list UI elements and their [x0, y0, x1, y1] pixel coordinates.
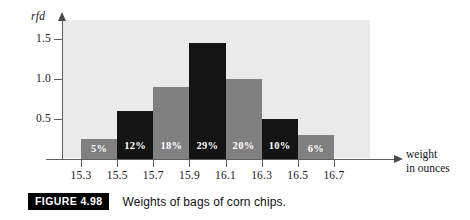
bar-series: 5%12%18%29%20%10%6%: [63, 20, 370, 159]
bar: 20%: [226, 79, 262, 159]
x-axis-tick-label: 15.5: [97, 169, 137, 181]
figure-number-badge: FIGURE 4.98: [28, 193, 109, 210]
y-axis-arrowhead: [58, 12, 66, 21]
x-axis-tick: [153, 159, 154, 167]
x-axis-tick: [298, 159, 299, 167]
bar: 29%: [189, 43, 225, 159]
bar-value-label: 29%: [189, 140, 225, 151]
x-axis-title-line1: weight: [406, 147, 450, 161]
x-axis-tick-label: 16.3: [242, 169, 282, 181]
bar-value-label: 20%: [226, 140, 262, 151]
y-axis-tick-label: 1.0: [11, 72, 51, 84]
y-axis-tick-label: 0.5: [11, 112, 51, 124]
bar-value-label: 12%: [117, 140, 153, 151]
x-axis-tick-label: 15.3: [61, 169, 101, 181]
figure-caption: FIGURE 4.98 Weights of bags of corn chip…: [28, 193, 286, 210]
bar: 12%: [117, 111, 153, 159]
x-axis-tick: [81, 159, 82, 167]
x-axis-tick-label: 16.1: [206, 169, 246, 181]
x-axis-tick-label: 16.7: [314, 169, 354, 181]
x-axis-tick: [117, 159, 118, 167]
y-axis-tick: [54, 79, 63, 80]
bar-value-label: 18%: [153, 140, 189, 151]
bar: 5%: [81, 139, 117, 159]
x-axis-tick: [226, 159, 227, 167]
y-axis-tick-label: 1.5: [11, 32, 51, 44]
y-axis-tick: [54, 39, 63, 40]
x-axis-tick: [262, 159, 263, 167]
x-axis-tick: [189, 159, 190, 167]
figure-container: 5%12%18%29%20%10%6% 0.51.01.5 15.315.515…: [0, 0, 470, 220]
bar: 18%: [153, 87, 189, 159]
y-axis-title: rfd: [31, 10, 45, 22]
x-axis-arrowhead: [394, 155, 403, 163]
y-axis-line: [62, 20, 63, 160]
x-axis-tick-label: 15.7: [133, 169, 173, 181]
x-axis-tick-label: 16.5: [278, 169, 318, 181]
figure-caption-text: Weights of bags of corn chips.: [122, 195, 286, 209]
bar-value-label: 5%: [81, 143, 117, 154]
y-axis-tick: [54, 119, 63, 120]
x-axis-tick: [334, 159, 335, 167]
x-axis-line: [46, 159, 395, 160]
bar: 10%: [262, 119, 298, 159]
x-axis-tick-label: 15.9: [169, 169, 209, 181]
x-axis-title: weight in ounces: [406, 147, 450, 175]
bar: 6%: [298, 135, 334, 159]
bar-value-label: 10%: [262, 140, 298, 151]
x-axis-title-line2: in ounces: [406, 161, 450, 175]
bar-value-label: 6%: [298, 143, 334, 154]
